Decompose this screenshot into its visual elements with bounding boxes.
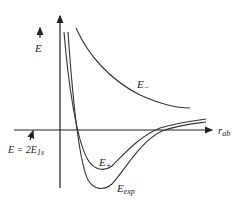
curve-e-minus [76, 28, 190, 108]
curve-e-exp [68, 32, 206, 189]
curve-e-plus-label: E+ [98, 156, 111, 170]
x-axis-label: rab [218, 124, 230, 138]
ref-arrow-icon [30, 131, 33, 140]
curve-e-exp-label: Eexp [116, 182, 135, 196]
curve-e-plus [64, 32, 206, 169]
y-axis-label: E [34, 42, 42, 54]
curve-e-minus-label: E− [136, 78, 149, 92]
energy-diagram: E E = 2E1s rab E− E+ Eexp [0, 0, 247, 206]
reference-level-label: E = 2E1s [7, 144, 44, 157]
